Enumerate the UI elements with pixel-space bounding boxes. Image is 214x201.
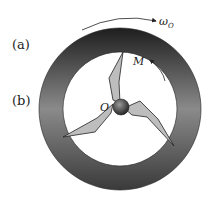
label-center: O	[100, 101, 109, 114]
hub	[113, 99, 129, 115]
label-part-a: (a)	[12, 37, 30, 52]
label-moment: M	[133, 55, 144, 68]
label-omega: ωO	[159, 15, 174, 30]
label-part-b: (b)	[12, 93, 30, 108]
